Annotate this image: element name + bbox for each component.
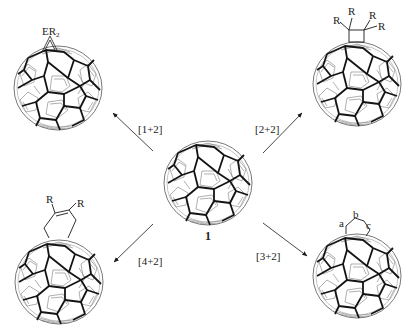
r-group-label: R: [378, 20, 386, 32]
compound-number-label: 1: [205, 229, 211, 243]
reaction-scheme: 1 ER2 R R R R R R: [0, 0, 416, 334]
reaction-label-3-plus-2: [3+2]: [256, 250, 281, 262]
product-1-plus-2: ER2: [14, 25, 102, 130]
r-group-label: R: [46, 193, 54, 205]
r-group-label: R: [369, 9, 377, 21]
product-4-plus-2: R R: [15, 193, 103, 324]
fullerene-c60-reactant: [164, 141, 252, 225]
reaction-label-2-plus-2: [2+2]: [255, 123, 280, 135]
reaction-label-4-plus-2: [4+2]: [138, 255, 163, 267]
ring-atom-c-label: c: [366, 219, 371, 231]
r-group-label: R: [333, 14, 341, 26]
r-group-label: R: [77, 197, 85, 209]
r-group-label: R: [348, 5, 356, 17]
product-2-plus-2: R R R R: [313, 5, 401, 126]
ring-atom-b-label: b: [353, 208, 359, 220]
reaction-label-1-plus-2: [1+2]: [138, 123, 163, 135]
cyclobutane-ring: [340, 18, 377, 42]
cyclohexene-ring: [44, 203, 76, 238]
er2-substituent-label: ER2: [42, 25, 60, 39]
product-3-plus-2: a b c: [313, 208, 401, 318]
ring-atom-a-label: a: [339, 217, 344, 229]
